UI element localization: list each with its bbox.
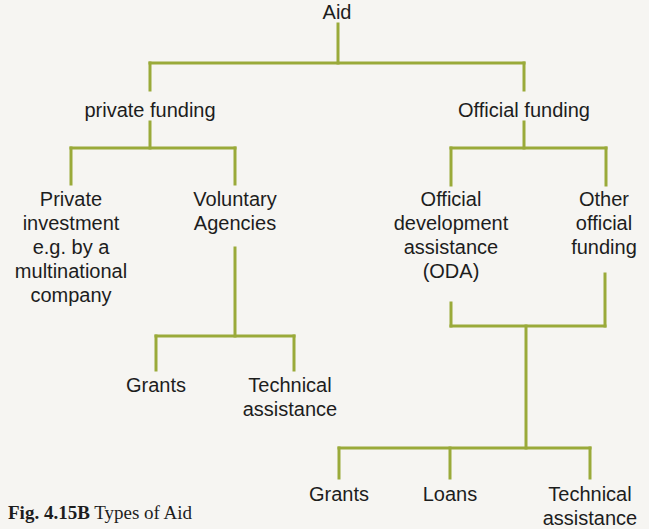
line: assistance	[394, 235, 509, 259]
node-official-funding-label: Official funding	[458, 98, 590, 122]
line: Voluntary	[193, 187, 276, 211]
line: funding	[571, 235, 637, 259]
line: Agencies	[193, 211, 276, 235]
node-va-grants: Grants	[126, 373, 186, 397]
line: assistance	[543, 506, 638, 529]
line: development	[394, 211, 509, 235]
line: Official	[394, 187, 509, 211]
node-official-loans: Loans	[423, 482, 478, 506]
node-aid: Aid	[323, 0, 352, 24]
node-oda: Official development assistance (ODA)	[394, 187, 509, 283]
node-official-technical-assistance: Technical assistance	[543, 482, 638, 529]
line: Technical	[543, 482, 638, 506]
node-private-investment: Private investment e.g. by a multination…	[15, 187, 127, 307]
node-official-grants: Grants	[309, 482, 369, 506]
node-other-official-funding: Other official funding	[571, 187, 637, 259]
line: Loans	[423, 482, 478, 506]
line: Technical	[243, 373, 338, 397]
figure-caption: Fig. 4.15B Types of Aid	[8, 502, 192, 524]
node-official-funding: Official funding	[458, 98, 590, 122]
line: assistance	[243, 397, 338, 421]
line: Grants	[126, 373, 186, 397]
figure-title: Types of Aid	[90, 502, 192, 523]
aid-types-diagram: Aid private funding Official funding Pri…	[0, 0, 649, 529]
node-voluntary-agencies: Voluntary Agencies	[193, 187, 276, 235]
line: Grants	[309, 482, 369, 506]
line: e.g. by a	[15, 235, 127, 259]
line: official	[571, 211, 637, 235]
node-private-funding: private funding	[84, 98, 215, 122]
line: investment	[15, 211, 127, 235]
node-private-funding-label: private funding	[84, 98, 215, 122]
line: multinational	[15, 259, 127, 283]
node-aid-label: Aid	[323, 0, 352, 24]
node-va-technical-assistance: Technical assistance	[243, 373, 338, 421]
line: company	[15, 283, 127, 307]
figure-number: Fig. 4.15B	[8, 502, 90, 523]
line: Private	[15, 187, 127, 211]
line: (ODA)	[394, 259, 509, 283]
line: Other	[571, 187, 637, 211]
